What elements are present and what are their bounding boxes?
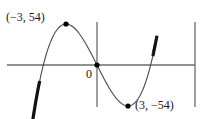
min-point-label: (3, −54): [135, 98, 174, 112]
origin-point-marker: [94, 62, 99, 67]
emphasized-segment-left: [32, 81, 39, 119]
cubic-graph: (−3, 54) 0 (3, −54): [0, 0, 210, 119]
origin-label: 0: [86, 67, 92, 81]
emphasized-segment-right: [153, 36, 157, 56]
min-point-marker: [125, 103, 130, 108]
max-point-label: (−3, 54): [6, 10, 45, 24]
max-point-marker: [63, 21, 68, 26]
